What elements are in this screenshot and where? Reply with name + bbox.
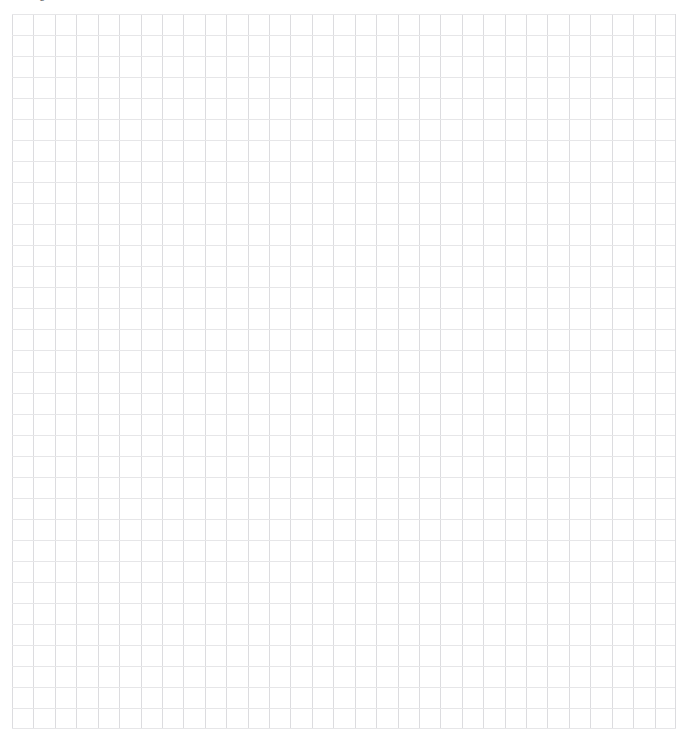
grid-right-edge-rule (675, 14, 676, 729)
clipped-header-line: Figure 1.v (30, 0, 99, 2)
graph-paper-grid (12, 14, 676, 729)
clipped-header-text: Figure 1. (30, 0, 73, 1)
grid-horizontal-rules (12, 14, 676, 729)
grid-lines (12, 14, 676, 729)
clipped-header-secondary-text: v (93, 0, 99, 1)
grid-bottom-edge-rule (12, 728, 676, 729)
clipped-page-header: Figure 1.v (0, 0, 687, 12)
graph-paper-page: { "page": { "background_color": "#ffffff… (0, 0, 687, 736)
